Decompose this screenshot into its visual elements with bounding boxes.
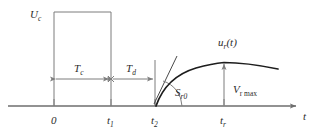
label-uc: Uc [30, 8, 42, 23]
tick-label-tr: tr [220, 114, 226, 129]
label-vrmax-sub: r max [240, 89, 258, 98]
label-sr0: Sr0 [175, 86, 187, 101]
label-sr0-sub: r0 [181, 92, 188, 101]
tick-label-origin: 0 [51, 114, 57, 126]
label-ur-suffix: (t) [226, 36, 237, 49]
axis-tick-marks [54, 99, 224, 106]
label-td: Td [126, 62, 136, 77]
label-vrmax: Vr max [233, 83, 257, 98]
response-curve [156, 63, 278, 107]
label-ur-t: ur(t) [218, 36, 237, 51]
tick-label-t2: t2 [151, 114, 158, 129]
label-tc-sub: c [80, 68, 84, 77]
figure-container: Uc Tc Td ur(t) Sr0 Vr max 0 t1 t2 tr t [0, 0, 318, 132]
charging-pulse-rectangle [54, 12, 111, 106]
label-tc: Tc [74, 62, 84, 77]
axis-label-t: t [303, 110, 307, 122]
tick-label-t1: t1 [107, 114, 114, 129]
label-td-sub: d [132, 68, 136, 77]
timing-diagram-svg: Uc Tc Td ur(t) Sr0 Vr max 0 t1 t2 tr t [0, 0, 318, 132]
label-uc-sub: c [38, 14, 42, 23]
tc-dimension [56, 76, 114, 82]
